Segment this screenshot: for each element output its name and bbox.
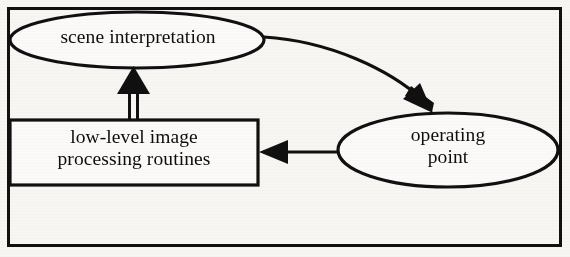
node-label-low-level-routines: low-level image processing routines — [14, 126, 254, 170]
figure-canvas: scene interpretation low-level image pro… — [0, 0, 570, 257]
node-label-scene-interpretation: scene interpretation — [18, 26, 258, 48]
edge-low-level-to-scene-arrowhead — [117, 66, 150, 94]
node-label-operating-point: operating point — [358, 124, 538, 168]
edge-scene-to-operating-point — [264, 37, 423, 100]
edge-operating-point-to-low-level-arrowhead — [259, 140, 288, 164]
